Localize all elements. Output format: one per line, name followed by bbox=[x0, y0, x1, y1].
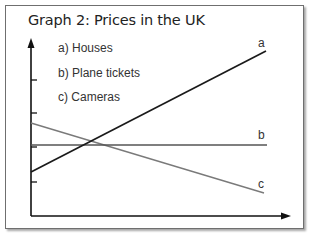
series-label-b: b bbox=[258, 128, 265, 142]
series-label-a: a bbox=[258, 36, 265, 50]
series-line-c-cameras bbox=[31, 123, 264, 193]
x-axis-arrow-icon bbox=[281, 213, 291, 220]
series-line-a-houses bbox=[31, 51, 266, 172]
series-label-c: c bbox=[258, 177, 264, 191]
y-axis-arrow-icon bbox=[28, 38, 35, 48]
